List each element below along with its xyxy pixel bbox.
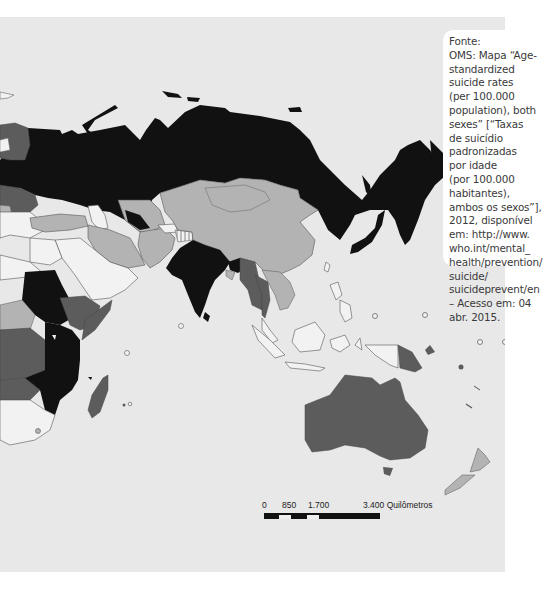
caption-line: de suicídio	[449, 132, 555, 146]
caption-line: population), both	[449, 104, 555, 118]
caption-line: Fonte:	[449, 35, 555, 49]
madagascar	[88, 375, 108, 418]
scale-segment	[279, 515, 291, 519]
scale-label-3400-km: 3.400 Quilômetros	[363, 500, 432, 510]
caption-line: suicide rates	[449, 76, 555, 90]
caption-line: who.int/mental_	[449, 242, 555, 256]
caption-line: abr. 2015.	[449, 311, 555, 325]
caption-line: – Acesso em: 04	[449, 297, 555, 311]
caption-line: suicide/	[449, 270, 555, 284]
caption-line: em: http://www.	[449, 228, 555, 242]
caption-line: 2012, disponível	[449, 214, 555, 228]
caption-line: OMS: Mapa “Age-	[449, 49, 555, 63]
caption-line: sexes” [“Taxas	[449, 118, 555, 132]
india	[166, 240, 230, 318]
caption-line: (por 100.000	[449, 173, 555, 187]
caption-line: padronizadas	[449, 145, 555, 159]
caption-line: suicideprevent/en	[449, 283, 555, 297]
scale-label-1700: 1.700	[308, 500, 329, 510]
caption-line: ambos os sexos”],	[449, 201, 555, 215]
australia	[305, 375, 428, 460]
caption-line: health/prevention/	[449, 256, 555, 270]
papua-new-guinea	[398, 345, 422, 372]
new-zealand	[470, 448, 490, 472]
map-svg	[0, 17, 505, 572]
caption-line: por idade	[449, 159, 555, 173]
caption-line: habitantes),	[449, 187, 555, 201]
caption-line: (per 100.000	[449, 90, 555, 104]
source-caption: Fonte: OMS: Mapa “Age- standardized suic…	[443, 30, 555, 266]
caption-line: standardized	[449, 63, 555, 77]
scale-label-850: 850	[282, 500, 296, 510]
scale-segment	[307, 515, 319, 519]
scale-bar: 0 850 1.700 3.400 Quilômetros	[262, 500, 492, 530]
world-map	[0, 17, 505, 572]
scale-label-0: 0	[262, 500, 267, 510]
